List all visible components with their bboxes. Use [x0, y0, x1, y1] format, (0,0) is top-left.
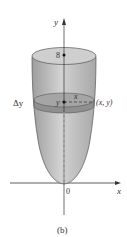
x-axis-label: x	[116, 186, 121, 196]
solid-of-revolution-diagram: y x 0 8 Δy y x (x, y) (b)	[0, 0, 127, 237]
x-axis-arrow-icon	[115, 181, 121, 185]
slab-center-point	[62, 100, 65, 103]
point-label: (x, y)	[96, 98, 113, 107]
y-axis-label: y	[53, 17, 58, 27]
top-point	[63, 54, 66, 57]
radius-x-label: x	[73, 92, 78, 101]
origin-label: 0	[66, 187, 70, 196]
top-height-label: 8	[56, 51, 60, 60]
delta-y-label: Δy	[13, 98, 24, 108]
figure-caption: (b)	[57, 225, 68, 235]
y-axis-arrow-icon	[62, 18, 66, 25]
slab-y-label: y	[55, 98, 60, 107]
